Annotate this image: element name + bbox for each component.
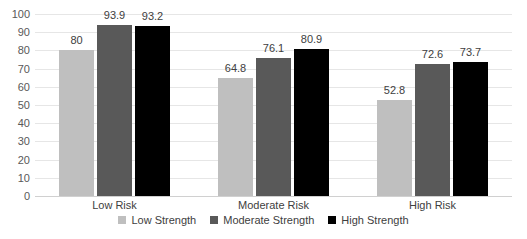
- bar[interactable]: [135, 26, 170, 196]
- chart-legend: Low StrengthModerate StrengthHigh Streng…: [0, 214, 527, 226]
- legend-swatch-icon: [118, 216, 126, 224]
- y-axis-tick-label: 60: [0, 81, 30, 92]
- legend-item[interactable]: High Strength: [328, 214, 408, 226]
- x-axis: Low RiskModerate RiskHigh Risk: [35, 198, 512, 214]
- legend-swatch-icon: [210, 216, 218, 224]
- legend-item[interactable]: Moderate Strength: [210, 214, 314, 226]
- axis-baseline: [35, 196, 512, 197]
- y-axis-tick-label: 0: [0, 191, 30, 202]
- bar[interactable]: [97, 25, 132, 196]
- y-axis-tick-label: 20: [0, 154, 30, 165]
- y-axis: 1009080706050403020100: [0, 14, 30, 196]
- bar-value-label: 93.2: [131, 11, 175, 22]
- bar-group: 8093.993.2: [35, 14, 194, 196]
- bar-value-label: 64.8: [214, 63, 258, 74]
- x-axis-category-label: Low Risk: [35, 198, 194, 212]
- legend-item[interactable]: Low Strength: [118, 214, 196, 226]
- legend-swatch-icon: [328, 216, 336, 224]
- bar-chart: 1009080706050403020100 8093.993.264.876.…: [0, 0, 527, 239]
- y-axis-tick-label: 80: [0, 45, 30, 56]
- bar[interactable]: [218, 78, 253, 196]
- bar-value-label: 80: [55, 35, 99, 46]
- bar-value-label: 52.8: [373, 85, 417, 96]
- bar-group: 52.872.673.7: [353, 14, 512, 196]
- x-axis-category-label: Moderate Risk: [194, 198, 353, 212]
- bar[interactable]: [59, 50, 94, 196]
- y-axis-tick-label: 70: [0, 63, 30, 74]
- bar[interactable]: [453, 62, 488, 196]
- y-axis-tick-label: 40: [0, 118, 30, 129]
- bars-layer: 8093.993.264.876.180.952.872.673.7: [35, 14, 512, 196]
- legend-label: High Strength: [341, 214, 408, 226]
- bar-value-label: 73.7: [449, 47, 493, 58]
- legend-label: Low Strength: [131, 214, 196, 226]
- bar[interactable]: [256, 58, 291, 197]
- y-axis-tick-label: 10: [0, 172, 30, 183]
- bar-group: 64.876.180.9: [194, 14, 353, 196]
- legend-label: Moderate Strength: [223, 214, 314, 226]
- bar[interactable]: [294, 49, 329, 196]
- bar[interactable]: [377, 100, 412, 196]
- y-axis-tick-label: 100: [0, 9, 30, 20]
- bar[interactable]: [415, 64, 450, 196]
- y-axis-tick-label: 90: [0, 27, 30, 38]
- bar-value-label: 80.9: [290, 34, 334, 45]
- x-axis-category-label: High Risk: [353, 198, 512, 212]
- y-axis-tick-label: 50: [0, 100, 30, 111]
- y-axis-tick-label: 30: [0, 136, 30, 147]
